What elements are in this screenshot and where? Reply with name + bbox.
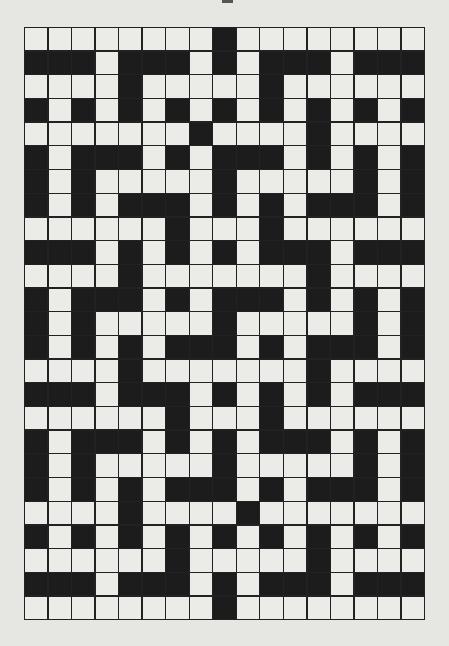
grid-cell[interactable] [25,360,47,382]
grid-cell[interactable] [237,478,259,500]
grid-cell[interactable] [331,407,353,429]
grid-cell[interactable] [190,431,212,453]
grid-cell[interactable] [237,265,259,287]
grid-cell[interactable] [49,526,71,548]
grid-cell[interactable] [402,265,424,287]
grid-cell[interactable] [378,99,400,121]
grid-cell[interactable] [25,123,47,145]
grid-cell[interactable] [331,312,353,334]
grid-cell[interactable] [308,218,330,240]
grid-cell[interactable] [284,170,306,192]
grid-cell[interactable] [378,549,400,571]
grid-cell[interactable] [49,146,71,168]
grid-cell[interactable] [72,123,94,145]
grid-cell[interactable] [331,123,353,145]
grid-cell[interactable] [119,170,141,192]
grid-cell[interactable] [143,218,165,240]
grid-cell[interactable] [237,28,259,50]
grid-cell[interactable] [308,407,330,429]
grid-cell[interactable] [284,478,306,500]
grid-cell[interactable] [284,194,306,216]
grid-cell[interactable] [143,146,165,168]
grid-cell[interactable] [284,218,306,240]
grid-cell[interactable] [378,146,400,168]
grid-cell[interactable] [96,265,118,287]
grid-cell[interactable] [284,526,306,548]
grid-cell[interactable] [378,289,400,311]
grid-cell[interactable] [190,360,212,382]
grid-cell[interactable] [72,75,94,97]
grid-cell[interactable] [72,28,94,50]
grid-cell[interactable] [355,28,377,50]
grid-cell[interactable] [143,336,165,358]
grid-cell[interactable] [378,170,400,192]
grid-cell[interactable] [213,75,235,97]
grid-cell[interactable] [143,312,165,334]
grid-cell[interactable] [402,502,424,524]
grid-cell[interactable] [260,549,282,571]
grid-cell[interactable] [378,526,400,548]
grid-cell[interactable] [166,265,188,287]
grid-cell[interactable] [96,597,118,619]
grid-cell[interactable] [143,75,165,97]
grid-cell[interactable] [331,502,353,524]
grid-cell[interactable] [49,478,71,500]
grid-cell[interactable] [72,407,94,429]
grid-cell[interactable] [119,28,141,50]
grid-cell[interactable] [143,502,165,524]
grid-cell[interactable] [96,478,118,500]
grid-cell[interactable] [49,289,71,311]
grid-cell[interactable] [284,75,306,97]
grid-cell[interactable] [378,218,400,240]
grid-cell[interactable] [190,99,212,121]
grid-cell[interactable] [284,360,306,382]
grid-cell[interactable] [331,454,353,476]
grid-cell[interactable] [25,407,47,429]
grid-cell[interactable] [308,454,330,476]
grid-cell[interactable] [355,265,377,287]
grid-cell[interactable] [143,597,165,619]
grid-cell[interactable] [402,597,424,619]
grid-cell[interactable] [190,407,212,429]
grid-cell[interactable] [378,407,400,429]
grid-cell[interactable] [143,478,165,500]
grid-cell[interactable] [237,360,259,382]
grid-cell[interactable] [143,241,165,263]
grid-cell[interactable] [190,454,212,476]
grid-cell[interactable] [331,241,353,263]
grid-cell[interactable] [308,502,330,524]
grid-cell[interactable] [355,549,377,571]
grid-cell[interactable] [378,336,400,358]
grid-cell[interactable] [402,549,424,571]
grid-cell[interactable] [378,312,400,334]
grid-cell[interactable] [237,218,259,240]
grid-cell[interactable] [355,123,377,145]
grid-cell[interactable] [49,99,71,121]
grid-cell[interactable] [237,99,259,121]
grid-cell[interactable] [190,312,212,334]
grid-cell[interactable] [190,502,212,524]
grid-cell[interactable] [213,502,235,524]
grid-cell[interactable] [331,526,353,548]
grid-cell[interactable] [166,312,188,334]
grid-cell[interactable] [119,123,141,145]
grid-cell[interactable] [237,123,259,145]
grid-cell[interactable] [331,383,353,405]
grid-cell[interactable] [49,597,71,619]
grid-cell[interactable] [96,218,118,240]
grid-cell[interactable] [402,407,424,429]
grid-cell[interactable] [284,407,306,429]
grid-cell[interactable] [378,454,400,476]
grid-cell[interactable] [308,170,330,192]
grid-cell[interactable] [96,502,118,524]
grid-cell[interactable] [378,265,400,287]
grid-cell[interactable] [284,99,306,121]
grid-cell[interactable] [25,265,47,287]
grid-cell[interactable] [49,431,71,453]
grid-cell[interactable] [49,123,71,145]
grid-cell[interactable] [49,170,71,192]
grid-cell[interactable] [166,454,188,476]
grid-cell[interactable] [331,146,353,168]
grid-cell[interactable] [260,502,282,524]
grid-cell[interactable] [190,289,212,311]
